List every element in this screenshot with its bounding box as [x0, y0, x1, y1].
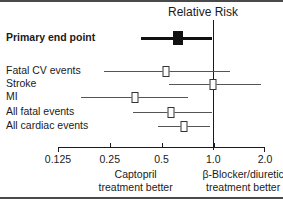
axis-tick-label: 1.0	[206, 153, 221, 165]
point-estimate-marker	[181, 121, 188, 132]
axis-tick-label: 2.0	[258, 153, 273, 165]
row-label: MI	[6, 91, 18, 102]
axis-tick	[264, 147, 265, 152]
axis-tick	[162, 143, 163, 148]
footer-left-line2: treatment better	[99, 181, 173, 193]
axis-tick	[110, 143, 111, 148]
point-estimate-marker-filled	[173, 31, 183, 45]
footer-right: β-Blocker/diuretic treatment better	[202, 168, 283, 194]
point-estimate-marker	[210, 79, 217, 90]
axis-tick-label: 0.25	[100, 153, 120, 165]
row-label: Stroke	[6, 78, 36, 89]
point-estimate-marker	[168, 107, 175, 118]
row-label: All fatal events	[6, 106, 74, 117]
axis-tick	[58, 147, 59, 152]
row-label: Fatal CV events	[6, 65, 81, 76]
row-label: Primary end point	[6, 32, 95, 43]
point-estimate-marker	[162, 66, 169, 77]
row-label: All cardiac events	[6, 120, 88, 131]
footer-left: Captopril treatment better	[99, 168, 173, 194]
forest-plot-figure: Relative Risk Primary end pointFatal CV …	[0, 0, 283, 199]
footer-right-line1: β-Blocker/diuretic	[202, 168, 283, 180]
axis-tick-label: 0.5	[154, 153, 169, 165]
axis-tick	[213, 143, 214, 148]
point-estimate-marker	[131, 92, 138, 103]
footer-left-line1: Captopril	[115, 168, 157, 180]
axis-tick-label: 0.125	[45, 153, 71, 165]
footer-right-line2: treatment better	[206, 181, 280, 193]
